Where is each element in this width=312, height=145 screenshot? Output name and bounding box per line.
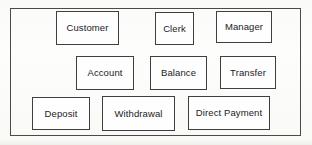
node-box-direct-payment[interactable]: Direct Payment [188, 96, 270, 130]
node-box-manager[interactable]: Manager [216, 11, 272, 43]
node-box-customer[interactable]: Customer [56, 11, 119, 45]
node-box-clerk[interactable]: Clerk [155, 12, 194, 45]
node-box-deposit[interactable]: Deposit [32, 97, 90, 130]
node-label: Account [87, 68, 122, 78]
node-label: Withdrawal [115, 109, 163, 119]
node-label: Balance [161, 68, 196, 78]
node-box-transfer[interactable]: Transfer [220, 56, 276, 89]
node-box-balance[interactable]: Balance [150, 56, 207, 90]
node-label: Deposit [45, 109, 78, 119]
node-label: Customer [67, 23, 109, 33]
node-label: Transfer [230, 68, 266, 78]
node-label: Clerk [163, 24, 186, 34]
diagram-canvas: CustomerClerkManagerAccountBalanceTransf… [0, 0, 312, 145]
node-box-withdrawal[interactable]: Withdrawal [102, 96, 175, 131]
node-label: Manager [225, 22, 263, 32]
node-box-account[interactable]: Account [76, 56, 134, 90]
node-label: Direct Payment [196, 108, 262, 118]
scan-edge-shadow [0, 139, 312, 145]
